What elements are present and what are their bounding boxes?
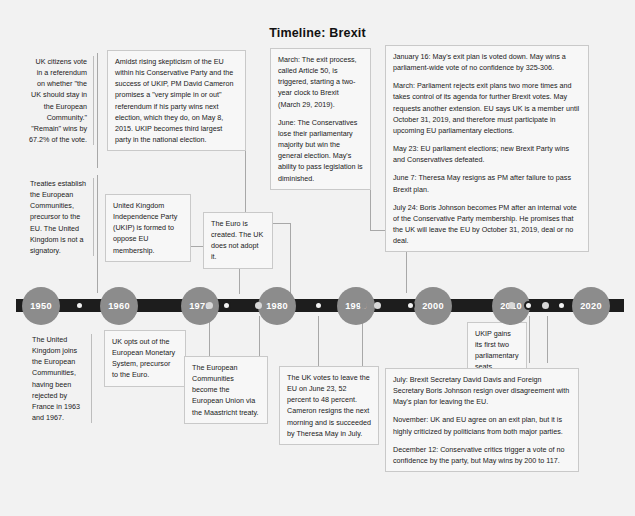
year-marker-1970: 1970	[181, 287, 219, 325]
event-text: March: Parliament rejects exit plans two…	[393, 80, 581, 136]
event-text: June 7: Theresa May resigns as PM after …	[393, 172, 581, 194]
year-label: 2020	[580, 301, 602, 311]
connector-line	[290, 223, 291, 293]
event-text: The European Communities become the Euro…	[192, 362, 260, 418]
event-dot-1999	[406, 301, 415, 310]
connector-line	[97, 175, 98, 293]
event-text: December 12: Conservative critics trigge…	[393, 444, 571, 466]
year-label: 1950	[30, 301, 52, 311]
year-marker-1950: 1950	[22, 287, 60, 325]
event-dot-1973	[206, 302, 213, 309]
event-dot-1979	[255, 302, 262, 309]
event-text: June: The Conservatives lose their parli…	[278, 117, 363, 184]
event-dot-1957	[75, 301, 84, 310]
page-title: Timeline: Brexit	[0, 26, 635, 40]
event-text: January 16: May's exit plan is voted dow…	[393, 51, 581, 73]
event-box-cameron-promise: Amidst rising skepticism of the EU withi…	[107, 50, 246, 151]
event-text: Treaties establish the European Communit…	[30, 178, 87, 256]
event-dot-2014	[524, 301, 533, 310]
event-text: United Kingdom Independence Party (UKIP)…	[113, 200, 183, 256]
event-text: The United Kingdom joins the European Co…	[32, 334, 85, 423]
event-text: UK opts out of the European Monetary Sys…	[112, 336, 178, 381]
event-text: July 24: Boris Johnson becomes PM after …	[393, 202, 581, 247]
timeline-infographic: Timeline: Brexit 1950 1960 1970 1980 199…	[0, 0, 635, 516]
connector-line	[97, 53, 98, 168]
event-text: UK citizens vote in a referendum on whet…	[28, 56, 87, 145]
event-dot-2013	[508, 302, 515, 309]
event-box-uk-joins: The United Kingdom joins the European Co…	[32, 334, 92, 423]
year-label: 2000	[422, 301, 444, 311]
event-box-referendum-1975: UK citizens vote in a referendum on whet…	[28, 56, 94, 145]
event-dot-2016	[542, 302, 549, 309]
year-marker-1960: 1960	[100, 287, 138, 325]
event-text: The UK votes to leave the EU on June 23,…	[287, 372, 371, 439]
year-label: 1960	[108, 301, 130, 311]
year-marker-2000: 2000	[414, 287, 452, 325]
year-marker-1980: 1980	[258, 287, 296, 325]
event-box-ems-optout: UK opts out of the European Monetary Sys…	[104, 330, 186, 387]
event-text: March: The exit process, called Article …	[278, 54, 363, 110]
event-text: The Euro is created. The UK does not ado…	[211, 218, 265, 263]
event-box-2019: January 16: May's exit plan is voted dow…	[385, 45, 589, 252]
event-box-2018: July: Brexit Secretary David Davis and F…	[385, 368, 579, 472]
event-box-ukip-formed: United Kingdom Independence Party (UKIP)…	[105, 194, 191, 262]
event-box-maastricht: The European Communities become the Euro…	[184, 356, 268, 424]
year-label: 1980	[266, 301, 288, 311]
event-text: July: Brexit Secretary David Davis and F…	[393, 374, 571, 407]
connector-line	[318, 316, 319, 366]
connector-line	[529, 316, 530, 363]
event-box-brexit-vote: The UK votes to leave the EU on June 23,…	[279, 366, 379, 445]
event-text: UKIP gains its first two parliamentary s…	[475, 328, 519, 373]
event-dot-1975	[222, 301, 231, 310]
event-dot-1988	[314, 301, 323, 310]
event-dot-2017	[557, 301, 566, 310]
event-box-2017: March: The exit process, called Article …	[270, 48, 371, 190]
event-text: Amidst rising skepticism of the EU withi…	[115, 56, 238, 145]
event-text: November: UK and EU agree on an exit pla…	[393, 414, 571, 436]
year-marker-2020: 2020	[572, 287, 610, 325]
event-text: May 23: EU parliament elections; new Bre…	[393, 143, 581, 165]
event-box-treaties-1950s: Treaties establish the European Communit…	[30, 178, 94, 256]
event-box-euro-created: The Euro is created. The UK does not ado…	[203, 212, 273, 269]
event-dot-1993	[374, 302, 381, 309]
connector-line	[547, 316, 548, 363]
year-marker-1990: 1990	[337, 287, 375, 325]
event-dot-1991	[360, 302, 367, 309]
